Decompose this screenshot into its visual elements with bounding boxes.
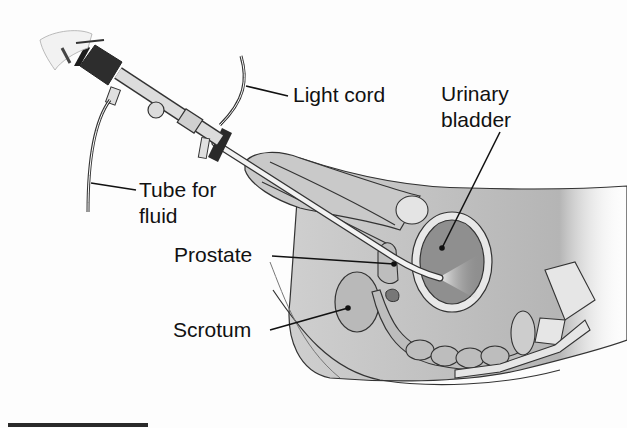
light-cord <box>220 56 244 125</box>
label-urinary-bladder-1: Urinary <box>441 82 509 106</box>
scrotum <box>335 272 379 332</box>
label-tube-2: fluid <box>139 204 178 228</box>
pubic-bone <box>396 196 428 224</box>
cystoscopy-illustration <box>0 0 627 428</box>
label-scrotum: Scrotum <box>173 318 251 342</box>
label-urinary-bladder-2: bladder <box>441 108 511 132</box>
label-tube-1: Tube for <box>139 178 216 202</box>
bottom-bar <box>8 423 148 427</box>
label-light-cord: Light cord <box>293 83 385 107</box>
label-prostate: Prostate <box>174 243 252 267</box>
